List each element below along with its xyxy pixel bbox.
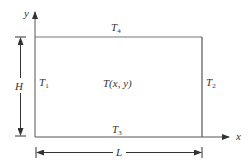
x-axis-label: x [236,131,241,142]
bottom-boundary-label: T3 [112,124,122,137]
length-label: L [115,147,123,158]
height-label: H [15,80,23,93]
y-axis-label: y [24,8,29,19]
right-boundary-label: T2 [206,77,216,90]
interior-temperature-label: T(x, y) [103,78,132,89]
left-boundary-label: T1 [39,77,49,90]
top-boundary-label: T4 [111,22,121,35]
diagram-canvas: y x T4 T1 T2 T3 T(x, y) H L [0,0,250,167]
